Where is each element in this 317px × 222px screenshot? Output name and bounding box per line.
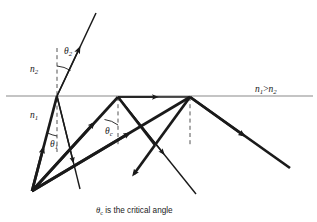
figure-caption: θc is the critical angle <box>96 205 173 216</box>
angle-arc-theta-c <box>105 120 119 126</box>
label-theta2: θ2 <box>64 46 73 57</box>
label-n1: n1 <box>30 110 38 121</box>
optics-diagram-canvas: n2 n1 θ2 θ1 θc n1>n2 θc is the critical … <box>0 0 317 222</box>
label-n2: n2 <box>30 64 39 75</box>
reflected-ray-ascent-to-point3 <box>155 97 190 145</box>
internal-ray-long-ascent-arrow <box>32 134 128 191</box>
thin-ray-point1-arrow-segment <box>57 96 73 161</box>
label-theta-c: θc <box>105 126 113 137</box>
label-theta1: θ1 <box>50 139 58 150</box>
reflected-ray-valley-arrow <box>134 145 155 174</box>
reflected-ray-point3-arrow <box>190 97 243 135</box>
ray-diagram-figure: n2 n1 θ2 θ1 θc n1>n2 θc is the critical … <box>0 0 317 222</box>
angle-arc-theta1 <box>48 133 58 136</box>
label-refractive-index-inequality: n1>n2 <box>255 84 277 95</box>
